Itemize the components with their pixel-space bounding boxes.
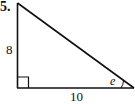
hypotenuse <box>18 3 135 88</box>
horizontal-leg-label: 10 <box>70 89 83 104</box>
right-angle-marker-icon <box>18 77 29 88</box>
vertical-leg-label: 8 <box>6 42 13 58</box>
angle-label: e <box>110 74 115 89</box>
angle-arc-icon <box>121 81 124 89</box>
triangle-shape <box>17 3 134 88</box>
